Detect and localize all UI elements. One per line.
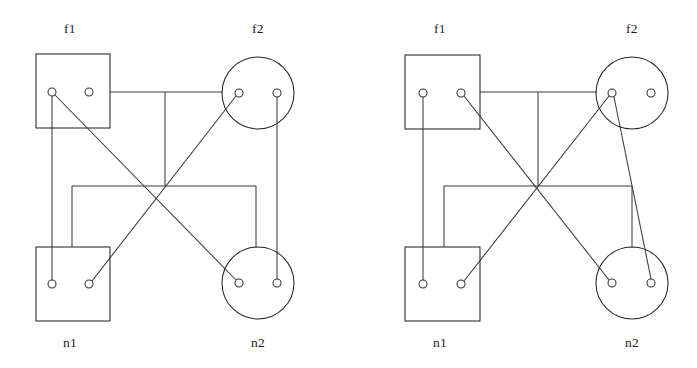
node-circle-n2[interactable] <box>596 247 668 319</box>
port-f2-port-right[interactable] <box>647 89 655 97</box>
node-f1-left-panel[interactable]: f1 <box>36 21 110 128</box>
node-label-n1: n1 <box>433 335 447 350</box>
node-label-n2: n2 <box>625 335 639 350</box>
port-f1-port-right[interactable] <box>457 89 465 97</box>
node-label-f2: f2 <box>626 21 638 36</box>
diagram-svg: f1f2n1n2f1f2n1n2 <box>0 0 697 368</box>
port-n1-port-left[interactable] <box>48 280 56 288</box>
right-diagram-edges <box>423 92 651 281</box>
node-label-f1: f1 <box>434 21 446 36</box>
node-square-n1[interactable] <box>36 247 110 321</box>
port-f1-port-left[interactable] <box>419 89 427 97</box>
port-n1-port-left[interactable] <box>419 280 427 288</box>
port-n1-port-right[interactable] <box>85 280 93 288</box>
diagram-canvas: f1f2n1n2f1f2n1n2 <box>0 0 697 368</box>
left-diagram-edges <box>52 92 277 281</box>
node-square-f1[interactable] <box>36 54 110 128</box>
node-n1-left-panel[interactable]: n1 <box>36 247 110 350</box>
port-f2-port-right[interactable] <box>273 89 281 97</box>
node-circle-f2[interactable] <box>222 57 294 129</box>
port-n2-port-right[interactable] <box>647 279 655 287</box>
port-n2-port-right[interactable] <box>273 279 281 287</box>
edge-f1left-to-n2left[interactable] <box>55 95 236 280</box>
node-square-f1[interactable] <box>405 55 480 129</box>
node-f1-right-panel[interactable]: f1 <box>405 21 480 129</box>
port-n1-port-right[interactable] <box>457 280 465 288</box>
port-f2-port-left[interactable] <box>235 89 243 97</box>
node-f2-left-panel[interactable]: f2 <box>222 21 294 129</box>
port-f2-port-left[interactable] <box>608 89 616 97</box>
node-label-n2: n2 <box>251 335 265 350</box>
node-circle-n2[interactable] <box>222 247 294 319</box>
node-f2-right-panel[interactable]: f2 <box>596 21 668 129</box>
port-n2-port-left[interactable] <box>235 279 243 287</box>
node-n1-right-panel[interactable]: n1 <box>405 247 480 350</box>
right-diagram: f1f2n1n2 <box>405 21 668 350</box>
edge-f2left-to-n1right[interactable] <box>92 96 236 281</box>
node-n2-right-panel[interactable]: n2 <box>596 247 668 350</box>
port-n2-port-left[interactable] <box>608 279 616 287</box>
left-diagram: f1f2n1n2 <box>36 21 294 350</box>
node-label-f2: f2 <box>252 21 264 36</box>
node-label-f1: f1 <box>64 21 76 36</box>
node-n2-left-panel[interactable]: n2 <box>222 247 294 350</box>
node-label-n1: n1 <box>63 335 77 350</box>
node-square-n1[interactable] <box>405 247 480 321</box>
port-f1-port-right[interactable] <box>85 88 93 96</box>
node-circle-f2[interactable] <box>596 57 668 129</box>
port-f1-port-left[interactable] <box>48 88 56 96</box>
